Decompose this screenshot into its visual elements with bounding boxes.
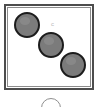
disc-bottom-right[interactable] [60,52,86,78]
faint-mark: c [51,21,54,27]
disc-sheen [44,37,54,44]
partial-circle-outline[interactable] [41,98,61,107]
disc-sheen [20,17,30,24]
disc-top-left[interactable] [14,12,40,38]
scene-canvas: c [0,0,99,107]
disc-middle[interactable] [38,32,64,58]
disc-sheen [66,57,76,64]
